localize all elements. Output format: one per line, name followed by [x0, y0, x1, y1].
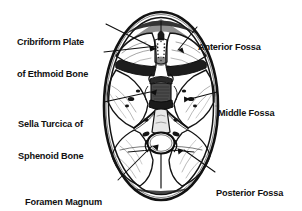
sella-turcica-structure [145, 77, 177, 110]
label-sella-line1: Sella Turcica of [18, 119, 83, 130]
label-posterior-line1: Posterior Fossa [216, 188, 283, 199]
label-anterior-fossa: Anterior Fossa [198, 21, 261, 74]
leader-line-sella [104, 92, 150, 102]
petrous-ridges-and-clivus [133, 109, 189, 135]
label-cribriform-line2: of Ethmoid Bone [17, 69, 88, 80]
skull-base-diagram: Cribriform Plate of Ethmoid Bone Sella T… [0, 0, 302, 211]
foramen-magnum-opening [145, 133, 177, 154]
label-foramen-line1: Foramen Magnum [25, 197, 102, 208]
label-cribriform-line1: Cribriform Plate [17, 37, 88, 48]
label-cribriform-plate-of-ethmoid-bone: Cribriform Plate of Ethmoid Bone [17, 16, 88, 101]
leader-line-cribriform-secondary [104, 46, 157, 52]
label-anterior-line1: Anterior Fossa [198, 42, 261, 53]
cribriform-plate-structure [155, 31, 167, 66]
label-sella-line2: Sphenoid Bone [18, 151, 83, 162]
label-posterior-fossa: Posterior Fossa [216, 167, 283, 211]
label-sella-turcica-of-sphenoid-bone: Sella Turcica of Sphenoid Bone [18, 98, 83, 183]
label-foramen-magnum: Foramen Magnum [25, 176, 102, 211]
label-middle-fossa: Middle Fossa [218, 87, 274, 140]
label-middle-line1: Middle Fossa [218, 108, 274, 119]
